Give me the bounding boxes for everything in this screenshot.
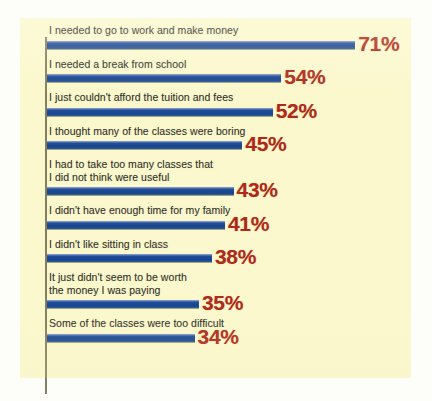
bar-value-label: 45% <box>245 133 286 154</box>
bar <box>47 187 234 196</box>
bar-value-label: 35% <box>202 292 243 313</box>
bar-value-label: 34% <box>198 326 239 347</box>
bar-category-label: I didn't like sitting in class <box>49 238 168 251</box>
horizontal-bar-chart: I needed to go to work and make money71%… <box>20 18 411 378</box>
bar <box>47 334 195 343</box>
bar-value-label: 43% <box>237 179 278 200</box>
bar-category-label: I needed a break from school <box>49 58 186 71</box>
bar <box>47 300 199 309</box>
bar-fill <box>47 300 199 309</box>
bar <box>47 221 225 230</box>
bar-category-label: I just couldn't afford the tuition and f… <box>49 91 233 104</box>
bar-category-label: It just didn't seem to be worth the mone… <box>49 271 187 296</box>
bar <box>47 74 281 83</box>
bar-category-label: I thought many of the classes were borin… <box>49 125 245 138</box>
bar <box>47 141 242 150</box>
bar-value-label: 41% <box>228 213 269 234</box>
bar-fill <box>47 221 225 230</box>
bar-category-label: I needed to go to work and make money <box>49 24 238 37</box>
bar <box>47 41 355 50</box>
bar-fill <box>47 141 242 150</box>
bar-fill <box>47 74 281 83</box>
bar-category-label: I had to take too many classes that I di… <box>49 158 213 183</box>
bar <box>47 254 212 263</box>
bar-fill <box>47 41 355 50</box>
chart-screenshot: I needed to go to work and make money71%… <box>0 0 432 401</box>
bar <box>47 108 273 117</box>
bar-fill <box>47 108 273 117</box>
bar-fill <box>47 187 234 196</box>
bar-value-label: 38% <box>215 246 256 267</box>
bar-value-label: 54% <box>284 66 325 87</box>
bar-fill <box>47 334 195 343</box>
bar-category-label: I didn't have enough time for my family <box>49 204 230 217</box>
bar-value-label: 71% <box>358 33 399 54</box>
bar-value-label: 52% <box>276 100 317 121</box>
bar-fill <box>47 254 212 263</box>
